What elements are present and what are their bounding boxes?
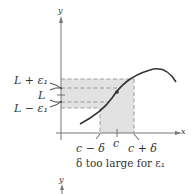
y-axis-label: y xyxy=(57,6,63,15)
c-plus-delta-label: c + δ xyxy=(128,142,157,155)
c-label: c xyxy=(113,137,119,150)
next-y-axis-arrow-icon xyxy=(60,184,64,190)
x-axis-label: x xyxy=(181,127,186,136)
left-pointer xyxy=(96,134,100,139)
next-y-axis-label: y xyxy=(58,175,64,184)
lower-epsilon-label: L − ε₁ xyxy=(13,102,48,115)
c-minus-delta-label: c − δ xyxy=(76,142,105,155)
limit-point xyxy=(115,90,119,94)
upper-bracket-2 xyxy=(50,88,62,90)
epsilon-delta-diagram: y x L + ε₁ L L − ε₁ c − δ c c + δ δ too … xyxy=(0,0,191,194)
upper-epsilon-label: L + ε₁ xyxy=(13,74,48,87)
y-axis-arrow-icon xyxy=(59,16,63,23)
l-label: L xyxy=(37,89,45,102)
right-pointer xyxy=(134,134,139,140)
lower-bracket xyxy=(50,100,62,102)
caption: δ too large for ε₁ xyxy=(76,157,165,169)
